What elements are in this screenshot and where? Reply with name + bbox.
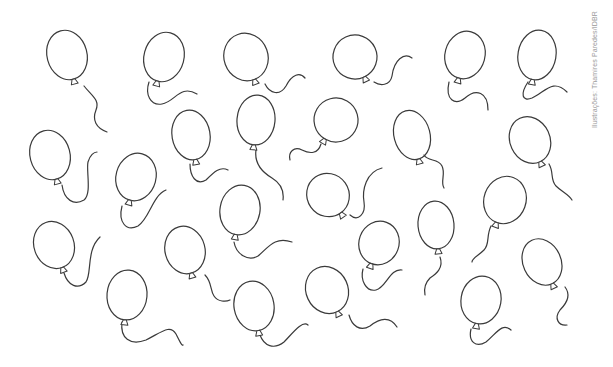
balloon-body — [353, 215, 406, 270]
balloon-knot — [361, 75, 369, 82]
balloon-body — [41, 26, 93, 85]
balloon-body — [326, 28, 384, 86]
balloon-string — [350, 168, 382, 218]
balloon — [298, 259, 397, 328]
balloon-string — [121, 190, 166, 228]
balloon-string — [190, 164, 228, 182]
balloon — [502, 110, 572, 200]
balloon — [298, 165, 382, 225]
balloon — [110, 149, 166, 228]
balloon-body — [306, 90, 366, 150]
balloon-string — [374, 56, 412, 84]
balloon-body — [105, 268, 149, 321]
balloon-string — [425, 257, 442, 295]
balloon-body — [298, 259, 356, 320]
balloon — [159, 222, 230, 302]
balloon-body — [24, 126, 76, 185]
balloon-string — [424, 155, 444, 188]
balloon — [326, 28, 412, 86]
balloon-knot — [492, 221, 500, 228]
balloon-string — [122, 322, 183, 345]
balloon-string — [234, 240, 292, 258]
balloon-body — [168, 107, 214, 163]
balloon-string — [256, 150, 284, 200]
balloon-string — [349, 315, 397, 328]
balloon — [439, 27, 490, 110]
balloon-string — [260, 324, 308, 346]
balloon-string — [84, 86, 107, 132]
balloon — [388, 106, 444, 188]
balloon-body — [235, 93, 277, 146]
balloon-body — [27, 216, 81, 275]
balloon-body — [388, 106, 436, 164]
balloon-body — [298, 165, 358, 225]
balloon — [230, 278, 308, 346]
balloon-knot — [251, 78, 259, 85]
balloon-string — [549, 164, 572, 200]
balloon — [138, 28, 197, 105]
balloon-body — [138, 28, 190, 87]
balloon-body — [439, 27, 490, 84]
balloon-string — [64, 237, 100, 286]
balloon-body — [502, 110, 559, 170]
balloon — [27, 216, 100, 287]
balloon — [514, 27, 567, 99]
balloon-string — [205, 275, 230, 301]
balloon-string — [62, 152, 97, 202]
balloon-string — [362, 269, 402, 290]
balloon-knot — [338, 211, 347, 219]
balloon — [457, 273, 511, 344]
balloon-knot — [549, 282, 557, 289]
balloon — [416, 200, 456, 295]
balloons-group — [24, 26, 572, 347]
balloon-knot — [366, 262, 374, 269]
balloon-body — [216, 182, 264, 238]
balloon — [290, 90, 366, 160]
balloon-body — [217, 27, 275, 87]
balloon — [235, 93, 283, 200]
balloon — [353, 215, 406, 290]
balloon-string — [265, 75, 305, 93]
balloon-string — [470, 327, 511, 344]
balloon-string — [472, 226, 491, 262]
balloon-knot — [59, 266, 67, 273]
balloon — [168, 107, 228, 182]
balloon — [105, 268, 183, 345]
balloon-body — [457, 273, 505, 327]
balloon-body — [110, 149, 161, 206]
balloon-body — [477, 170, 533, 229]
balloon-knot — [334, 310, 342, 317]
balloon-knot — [537, 160, 545, 167]
balloon-pattern-illustration — [0, 0, 613, 367]
balloon-body — [514, 27, 560, 83]
balloon-body — [230, 278, 278, 334]
balloon-string — [448, 82, 488, 110]
balloon — [216, 182, 292, 258]
balloon-string — [557, 287, 568, 325]
balloon — [515, 232, 570, 325]
balloon-body — [159, 222, 210, 279]
balloon-string — [290, 144, 321, 160]
balloon — [41, 26, 107, 132]
balloon — [217, 27, 305, 93]
balloon-body — [515, 232, 570, 292]
balloon — [24, 126, 97, 203]
illustration-credit: Ilustrações: Thamires Paredes/IDBR — [591, 11, 598, 128]
balloon-body — [416, 200, 456, 251]
